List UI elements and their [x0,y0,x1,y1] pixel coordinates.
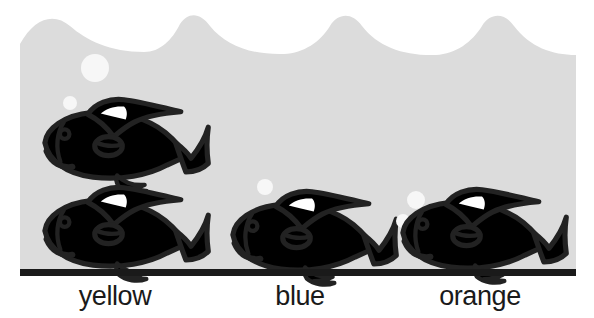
bubble-icon [257,179,273,195]
bubble-icon [63,96,77,110]
category-label-yellow: yellow [40,283,190,310]
underwater-scene [0,0,594,318]
bubble-icon [81,54,109,82]
category-label-blue: blue [235,283,365,310]
pictograph-chart: yellow blue orange [0,0,594,318]
baseline-axis [20,269,576,276]
bubble-group-blue [257,179,273,195]
category-label-orange: orange [400,283,560,310]
bubble-icon [407,191,425,209]
